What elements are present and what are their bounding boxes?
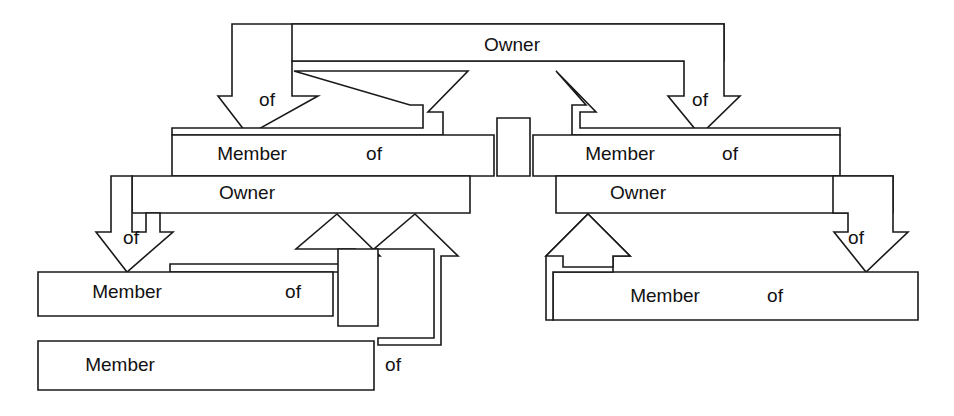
label-of-owner2-left: of <box>123 227 140 248</box>
label-member-4: Member <box>630 285 700 306</box>
label-member-2: Member <box>585 143 655 164</box>
ribbon-lower-left-stem <box>338 249 378 326</box>
label-owner-2: Owner <box>219 182 276 203</box>
label-owner-1: Owner <box>484 34 541 55</box>
label-of-member-2: of <box>722 143 739 164</box>
label-owner-3: Owner <box>610 182 667 203</box>
ribbon-member5-to-owner2 <box>374 214 458 345</box>
box-member-4 <box>553 272 918 320</box>
label-of-member-3: of <box>285 281 302 302</box>
diagram-canvas: Owner of of Member of Member of Owner Ow… <box>0 0 954 416</box>
box-owner-2 <box>132 176 470 213</box>
label-of-owner1-left: of <box>259 89 276 110</box>
label-member-3: Member <box>92 281 162 302</box>
label-of-member-5: of <box>385 354 402 375</box>
label-member-5: Member <box>85 354 155 375</box>
label-member-1: Member <box>217 143 287 164</box>
label-of-member-4: of <box>767 285 784 306</box>
label-of-member-1: of <box>366 143 383 164</box>
owner-member-diagram: Owner of of Member of Member of Owner Ow… <box>0 0 954 416</box>
box-member-2 <box>533 135 840 176</box>
ribbon-center-stem <box>497 118 530 176</box>
label-of-owner1-right: of <box>692 89 709 110</box>
label-of-owner3-right: of <box>848 227 865 248</box>
ribbon-member1-to-owner1 <box>172 71 468 135</box>
ribbon-owner3-to-member4 <box>833 176 908 272</box>
